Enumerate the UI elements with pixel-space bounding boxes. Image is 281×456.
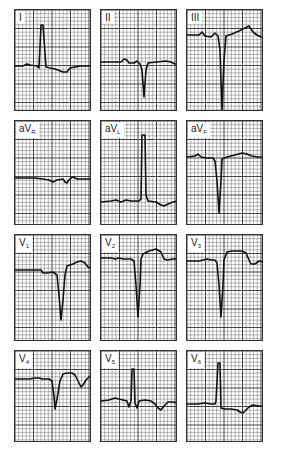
lead-label: V5 xyxy=(102,352,118,368)
ecg-lead-panel-v6: V6 xyxy=(186,350,263,442)
ecg-trace-chart xyxy=(187,10,263,111)
ecg-trace xyxy=(15,373,91,409)
ecg-lead-panel-i: I xyxy=(14,9,91,111)
lead-label-text: V xyxy=(191,237,198,248)
lead-label: V2 xyxy=(102,236,118,252)
ecg-lead-panel-v1: V1 xyxy=(14,234,91,341)
lead-label-subscript: F xyxy=(203,129,207,135)
ecg-trace xyxy=(15,177,91,183)
lead-label: aVF xyxy=(188,122,210,138)
lead-label-text: aV xyxy=(19,123,31,134)
lead-label-subscript: 3 xyxy=(198,243,201,249)
ecg-lead-panel-v2: V2 xyxy=(100,234,177,341)
lead-label: II xyxy=(102,11,114,24)
ecg-lead-panel-avr: aVR xyxy=(14,120,91,225)
grid-lines xyxy=(15,10,91,111)
ecg-trace-chart xyxy=(15,10,91,111)
lead-label-text: I xyxy=(19,12,22,23)
lead-label-subscript: R xyxy=(31,129,35,135)
lead-label-text: V xyxy=(105,353,112,364)
lead-label-subscript: 2 xyxy=(112,243,115,249)
ecg-lead-panel-ii: II xyxy=(100,9,177,111)
grid-lines xyxy=(187,10,263,111)
lead-label-text: aV xyxy=(191,123,203,134)
ecg-lead-panel-v3: V3 xyxy=(186,234,263,341)
lead-label: I xyxy=(16,11,25,24)
lead-label: aVL xyxy=(102,122,124,138)
lead-label-text: V xyxy=(19,237,26,248)
ecg-trace xyxy=(101,369,177,410)
lead-label-subscript: 6 xyxy=(198,359,201,365)
ecg-lead-panel-iii: III xyxy=(186,9,263,111)
ecg-lead-panel-avf: aVF xyxy=(186,120,263,225)
lead-label-text: V xyxy=(191,353,198,364)
ecg-lead-panel-avl: aVL xyxy=(100,120,177,225)
lead-label-text: III xyxy=(191,12,199,23)
lead-label: V4 xyxy=(16,352,32,368)
lead-label-text: II xyxy=(105,12,111,23)
ecg-trace xyxy=(187,153,263,213)
lead-label: III xyxy=(188,11,202,24)
lead-label: V6 xyxy=(188,352,204,368)
ecg-lead-panel-v4: V4 xyxy=(14,350,91,442)
lead-label: V1 xyxy=(16,236,32,252)
lead-label-subscript: 5 xyxy=(112,359,115,365)
lead-label-text: V xyxy=(19,353,26,364)
lead-label: V3 xyxy=(188,236,204,252)
lead-label-text: aV xyxy=(105,123,117,134)
lead-label-subscript: 1 xyxy=(26,243,29,249)
lead-label-text: V xyxy=(105,237,112,248)
lead-label-subscript: 4 xyxy=(26,359,29,365)
ecg-trace-chart xyxy=(101,10,177,111)
lead-label-subscript: L xyxy=(117,129,120,135)
lead-label: aVR xyxy=(16,122,39,138)
ecg-lead-panel-v5: V5 xyxy=(100,350,177,442)
ecg-trace xyxy=(187,26,263,110)
